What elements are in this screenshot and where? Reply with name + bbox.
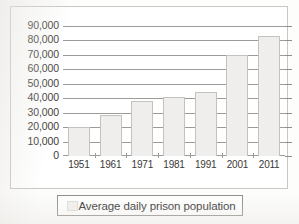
y-tick-mark-80000 — [285, 40, 292, 41]
bar-1991 — [195, 92, 217, 156]
legend: Average daily prison population — [57, 195, 243, 216]
gridline-60000 — [63, 69, 285, 70]
x-minor-tick-1 — [126, 153, 127, 158]
bar-1981 — [163, 97, 185, 156]
x-tick-label-2011: 2011 — [253, 159, 285, 170]
y-tick-mark-30000 — [285, 113, 292, 114]
x-minor-tick-2 — [158, 153, 159, 158]
y-tick-mark-50000 — [285, 84, 292, 85]
x-tick-label-1961: 1961 — [95, 159, 127, 170]
gridline-50000 — [63, 84, 285, 85]
x-tick-label-1951: 1951 — [63, 159, 95, 170]
bar-1971 — [131, 101, 153, 156]
y-tick-label-20000: 20,000 — [13, 121, 59, 131]
x-minor-tick-5 — [253, 153, 254, 158]
y-tick-label-30000: 30,000 — [13, 107, 59, 117]
gridline-70000 — [63, 55, 285, 56]
x-minor-tick-4 — [222, 153, 223, 158]
y-tick-label-50000: 50,000 — [13, 78, 59, 88]
y-tick-label-70000: 70,000 — [13, 49, 59, 59]
chart-frame: 010,00020,00030,00040,00050,00060,00070,… — [10, 6, 288, 189]
bar-1951 — [68, 127, 90, 156]
bar-2011 — [258, 36, 280, 156]
y-tick-mark-90000 — [285, 26, 292, 27]
x-tick-label-2001: 2001 — [222, 159, 254, 170]
plot-area — [63, 26, 285, 156]
x-tick-label-1991: 1991 — [190, 159, 222, 170]
chart-page: 010,00020,00030,00040,00050,00060,00070,… — [0, 0, 299, 224]
x-tick-label-1981: 1981 — [158, 159, 190, 170]
y-axis-labels: 010,00020,00030,00040,00050,00060,00070,… — [11, 26, 59, 156]
y-tick-mark-70000 — [285, 55, 292, 56]
y-tick-label-80000: 80,000 — [13, 34, 59, 44]
bar-2001 — [226, 55, 248, 156]
bar-1961 — [100, 115, 122, 156]
x-minor-tick-3 — [190, 153, 191, 158]
x-minor-tick-0 — [95, 153, 96, 158]
y-tick-mark-60000 — [285, 69, 292, 70]
y-tick-mark-20000 — [285, 127, 292, 128]
y-tick-mark-40000 — [285, 98, 292, 99]
y-tick-mark-10000 — [285, 142, 292, 143]
y-tick-label-0: 0 — [13, 150, 59, 160]
x-tick-label-1971: 1971 — [126, 159, 158, 170]
y-tick-label-40000: 40,000 — [13, 92, 59, 102]
gridline-80000 — [63, 40, 285, 41]
y-tick-label-60000: 60,000 — [13, 63, 59, 73]
y-axis-right-ticks — [285, 26, 293, 156]
y-tick-label-90000: 90,000 — [13, 20, 59, 30]
y-tick-label-10000: 10,000 — [13, 136, 59, 146]
legend-label: Average daily prison population — [64, 200, 235, 212]
legend-swatch-icon — [67, 201, 78, 211]
gridline-90000 — [63, 26, 285, 27]
x-axis-labels: 1951196119711981199120012011 — [63, 159, 285, 175]
y-tick-mark-0 — [285, 156, 292, 157]
